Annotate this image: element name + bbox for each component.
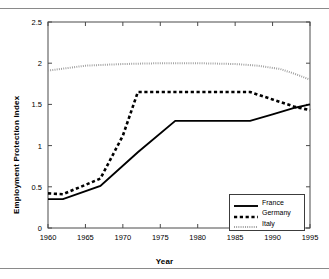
x-tick-label: 1985 bbox=[227, 233, 244, 242]
top-divider bbox=[0, 8, 329, 9]
legend-label: Germany bbox=[262, 209, 291, 216]
legend-swatch-dashed-icon bbox=[233, 208, 259, 218]
legend-item-france: France bbox=[233, 197, 301, 208]
data-series-group bbox=[48, 63, 310, 199]
y-tick-label: 0.5 bbox=[10, 182, 42, 191]
series-line-italy bbox=[48, 63, 310, 79]
x-tick-label: 1990 bbox=[264, 233, 281, 242]
y-tick-label: 1.5 bbox=[10, 100, 42, 109]
x-tick-label: 1975 bbox=[152, 233, 169, 242]
legend-swatch-solid-icon bbox=[233, 197, 259, 207]
legend-label: France bbox=[262, 199, 284, 206]
x-tick-label: 1995 bbox=[302, 233, 319, 242]
x-axis-title: Year bbox=[0, 257, 329, 266]
bottom-divider bbox=[0, 268, 329, 269]
y-tick-label: 1 bbox=[10, 141, 42, 150]
chart-plot-area: Employment Protection Index Year 00.511.… bbox=[0, 14, 329, 266]
y-axis-title: Employment Protection Index bbox=[12, 96, 21, 214]
figure-container: Employment Protection Index Year 00.511.… bbox=[0, 0, 329, 279]
y-tick-label: 0 bbox=[10, 224, 42, 233]
legend-label: Italy bbox=[262, 220, 275, 227]
legend-item-italy: Italy bbox=[233, 218, 301, 229]
y-tick-label: 2.5 bbox=[10, 18, 42, 27]
series-line-germany bbox=[48, 92, 310, 194]
legend-item-germany: Germany bbox=[233, 208, 301, 219]
chart-legend: FranceGermanyItaly bbox=[229, 194, 305, 231]
x-tick-label: 1960 bbox=[40, 233, 57, 242]
x-tick-label: 1980 bbox=[189, 233, 206, 242]
x-tick-label: 1965 bbox=[77, 233, 94, 242]
x-tick-label: 1970 bbox=[115, 233, 132, 242]
y-tick-label: 2 bbox=[10, 59, 42, 68]
legend-swatch-dotted-icon bbox=[233, 218, 259, 228]
